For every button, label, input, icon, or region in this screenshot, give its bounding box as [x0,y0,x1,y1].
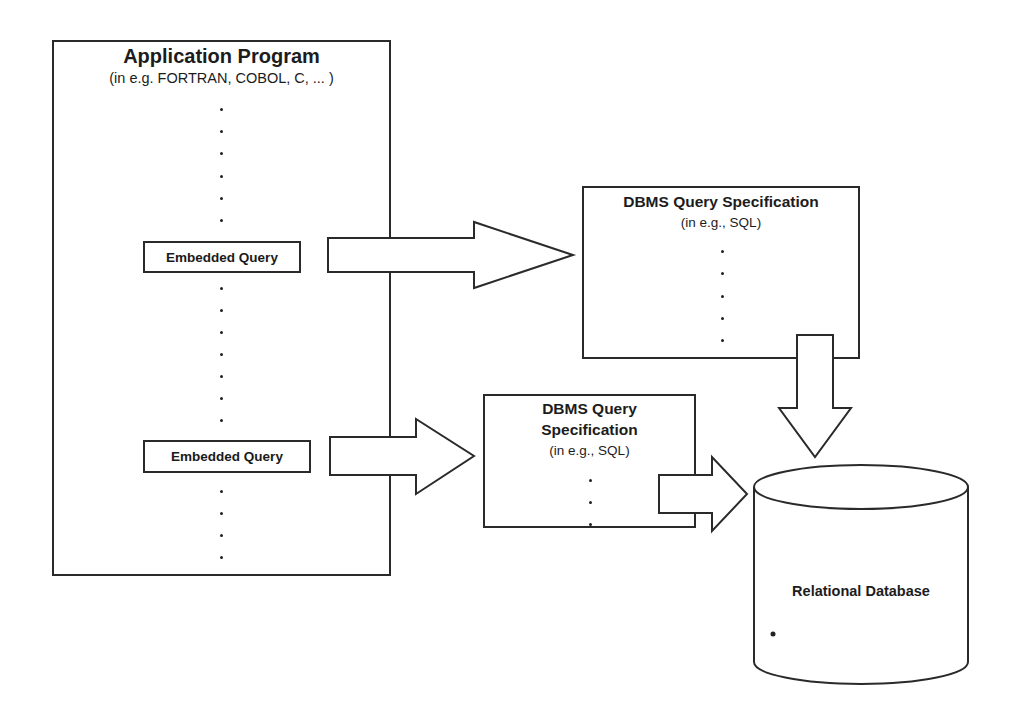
arrow-right-icon [330,419,474,494]
relational-database-label: Relational Database [754,583,968,599]
database-cylinder-icon [754,465,968,684]
arrow-down-icon [779,335,851,457]
arrow-right-icon [328,222,573,288]
arrow-right-icon [659,457,747,531]
diagram-shapes [0,0,1021,723]
